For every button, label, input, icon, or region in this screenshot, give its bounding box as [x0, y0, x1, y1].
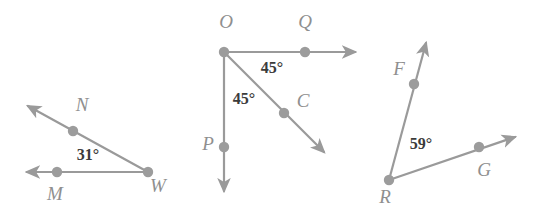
point-dot-G	[474, 142, 484, 152]
point-label-N: N	[75, 94, 90, 115]
vertex-dot-O	[219, 47, 229, 57]
angle-measure-COP: 45°	[233, 90, 255, 107]
point-dot-P	[219, 142, 229, 152]
point-dot-C	[279, 108, 289, 118]
angle-diagrams-svg: W N M 31° O Q C P 45° 45°	[0, 0, 538, 222]
diagram-angle-QOC-COP: O Q C P 45° 45°	[201, 11, 355, 191]
vertex-dot-R	[384, 175, 394, 185]
diagram-angle-NWM: W N M 31°	[27, 94, 168, 204]
point-dot-Q	[300, 47, 310, 57]
point-label-R: R	[378, 186, 391, 207]
point-label-C: C	[297, 90, 310, 111]
point-label-W: W	[150, 175, 168, 196]
diagram-angle-FRG: R F G 59°	[378, 43, 515, 207]
point-dot-F	[409, 79, 419, 89]
point-label-G: G	[477, 159, 491, 180]
point-label-O: O	[219, 11, 233, 32]
point-dot-N	[68, 126, 78, 136]
ray-RG-line	[389, 137, 515, 180]
angle-measure-NWM: 31°	[77, 146, 99, 163]
point-label-P: P	[201, 133, 214, 154]
point-label-M: M	[46, 183, 64, 204]
point-dot-M	[52, 167, 62, 177]
angle-measure-FRG: 59°	[410, 135, 432, 152]
point-label-Q: Q	[298, 11, 312, 32]
angle-measure-QOC: 45°	[261, 59, 283, 76]
geometry-figure-canvas: W N M 31° O Q C P 45° 45°	[0, 0, 538, 222]
point-label-F: F	[392, 58, 405, 79]
